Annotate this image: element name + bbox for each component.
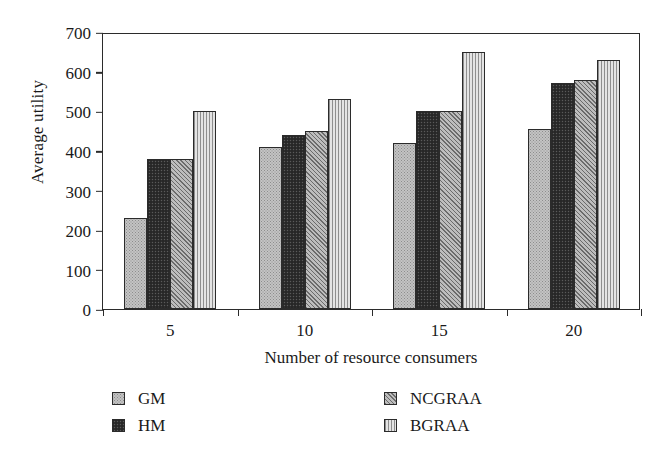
x-tick-mark — [641, 309, 642, 316]
legend-column-right: NCGRAABGRAA — [384, 385, 482, 439]
legend-swatch-gm — [112, 392, 125, 405]
y-tick-mark — [96, 112, 103, 113]
y-tick-label: 300 — [47, 182, 91, 202]
bar-hm-15 — [416, 111, 439, 309]
bar-bgraa-20 — [597, 60, 620, 309]
chart-legend: GMHM NCGRAABGRAA — [112, 385, 552, 443]
bar-gm-10 — [259, 147, 282, 309]
bar-gm-15 — [393, 143, 416, 309]
y-tick: 200 — [47, 222, 103, 242]
y-tick-mark — [96, 310, 103, 311]
bar-chart-figure: Average utility 0100200300400500600700 5… — [0, 0, 662, 452]
y-tick-label: 0 — [47, 301, 91, 321]
y-tick-mark — [96, 33, 103, 34]
bar-ncgraa-20 — [574, 80, 597, 310]
bar-bgraa-5 — [193, 111, 216, 309]
bar-ncgraa-5 — [170, 159, 193, 309]
bar-ncgraa-10 — [305, 131, 328, 309]
legend-label-gm: GM — [138, 389, 165, 409]
legend-swatch-hm — [112, 419, 125, 432]
y-tick-mark — [96, 72, 103, 73]
bar-hm-10 — [282, 135, 305, 309]
legend-item-bgraa[interactable]: BGRAA — [384, 412, 482, 439]
x-tick-mark — [372, 309, 373, 316]
legend-column-left: GMHM — [112, 385, 165, 439]
x-tick-label: 20 — [565, 321, 582, 341]
legend-swatch-ncgraa — [384, 392, 397, 405]
legend-label-ncgraa: NCGRAA — [410, 389, 482, 409]
legend-item-gm[interactable]: GM — [112, 385, 165, 412]
x-tick-label: 5 — [166, 321, 175, 341]
y-tick: 100 — [47, 261, 103, 281]
bar-bgraa-10 — [328, 99, 351, 309]
y-tick-mark — [96, 151, 103, 152]
y-tick: 700 — [47, 24, 103, 44]
y-tick-mark — [96, 230, 103, 231]
bar-bgraa-15 — [462, 52, 485, 309]
y-tick-label: 700 — [47, 24, 91, 44]
legend-item-ncgraa[interactable]: NCGRAA — [384, 385, 482, 412]
y-tick: 600 — [47, 63, 103, 83]
x-tick-label: 10 — [296, 321, 313, 341]
bar-gm-5 — [124, 218, 147, 309]
y-tick-label: 600 — [47, 64, 91, 84]
x-tick-mark — [238, 309, 239, 316]
legend-label-hm: HM — [138, 416, 165, 436]
legend-item-hm[interactable]: HM — [112, 412, 165, 439]
legend-swatch-bgraa — [384, 419, 397, 432]
legend-label-bgraa: BGRAA — [410, 416, 470, 436]
y-tick-mark — [96, 191, 103, 192]
x-tick-mark — [103, 309, 104, 316]
x-axis-title: Number of resource consumers — [265, 348, 478, 367]
y-axis-title: Average utility — [28, 32, 48, 232]
bar-hm-20 — [551, 83, 574, 309]
y-tick: 400 — [47, 143, 103, 163]
bar-gm-20 — [528, 129, 551, 309]
x-axis-title-host: Number of resource consumers — [102, 348, 640, 368]
y-tick-mark — [96, 270, 103, 271]
x-tick-mark — [507, 309, 508, 316]
plot-area: 0100200300400500600700 5101520 — [102, 33, 640, 310]
y-tick: 0 — [47, 301, 103, 321]
x-tick-label: 15 — [431, 321, 448, 341]
y-tick-label: 200 — [47, 222, 91, 242]
y-tick-label: 500 — [47, 103, 91, 123]
y-tick-label: 100 — [47, 262, 91, 282]
bar-ncgraa-15 — [439, 111, 462, 309]
y-tick: 500 — [47, 103, 103, 123]
bar-hm-5 — [147, 159, 170, 309]
y-tick-label: 400 — [47, 143, 91, 163]
y-tick: 300 — [47, 182, 103, 202]
